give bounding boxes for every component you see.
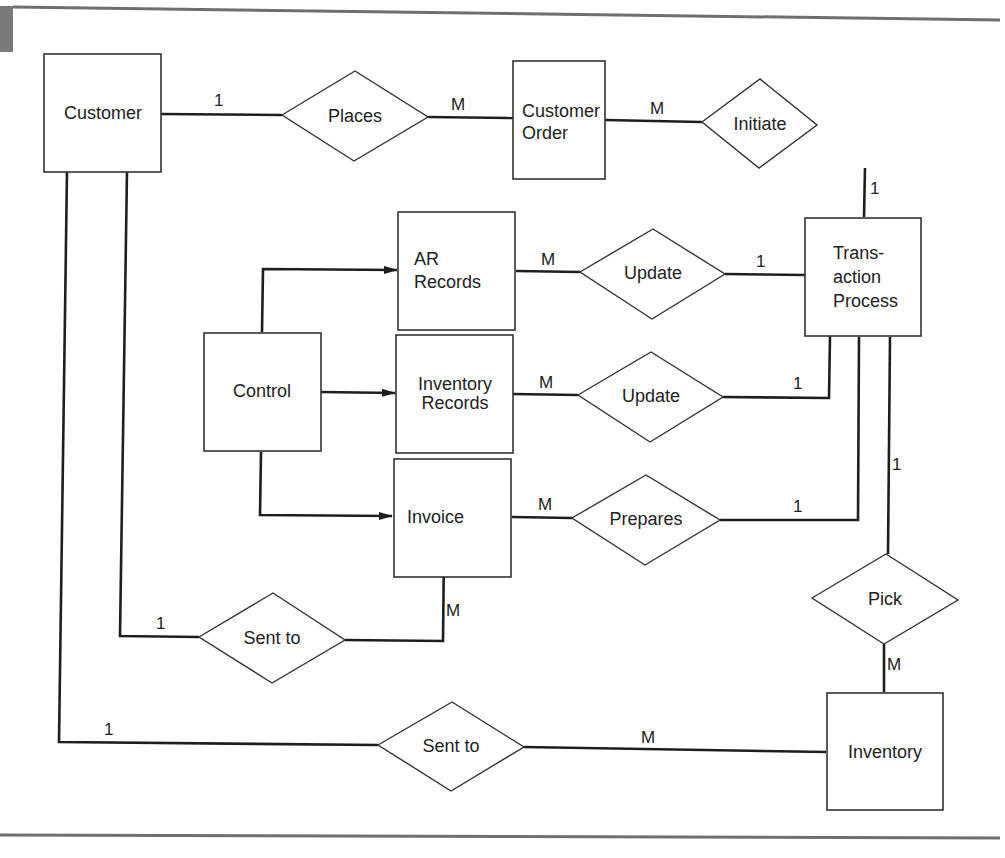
- entity-label: Inventory: [848, 742, 922, 762]
- line-ar-update: [516, 271, 580, 272]
- line-update-tp: [725, 274, 806, 275]
- entity-inventory-records[interactable]: Inventory Records: [396, 335, 513, 453]
- relationship-label: Places: [328, 106, 382, 126]
- entity-label: Customer: [64, 103, 142, 123]
- line-sentto-inventory: [524, 747, 826, 752]
- line-tp-pick: [888, 337, 890, 554]
- top-rule: [13, 7, 1000, 20]
- entity-label: Inventory: [418, 374, 492, 394]
- entity-label: Records: [414, 272, 481, 292]
- line-initiate-tp: [864, 168, 865, 217]
- line-update2-tp: [723, 336, 830, 398]
- relationship-sent-to-invoice[interactable]: Sent to: [199, 593, 345, 683]
- cardinality-label: 1: [104, 720, 113, 739]
- entity-label: Trans-: [833, 243, 884, 263]
- relationship-label: Prepares: [609, 509, 682, 529]
- cardinality-label: M: [650, 99, 664, 118]
- line-customer-sentto-invoice: [120, 171, 199, 637]
- relationship-pick[interactable]: Pick: [812, 554, 958, 644]
- cardinality-label: M: [539, 373, 553, 392]
- bottom-rule: [0, 835, 1000, 838]
- entity-ar-records[interactable]: AR Records: [398, 212, 515, 330]
- line-invrec-update: [513, 394, 578, 395]
- cardinality-label: M: [451, 95, 465, 114]
- line-customer-sentto-inventory: [59, 171, 378, 745]
- relationship-update-inventory[interactable]: Update: [578, 352, 723, 442]
- relationship-label: Sent to: [243, 628, 300, 648]
- entity-control[interactable]: Control: [204, 333, 321, 451]
- relationship-update-ar[interactable]: Update: [580, 229, 725, 319]
- entity-label: Process: [833, 291, 898, 311]
- line-invoice-prepares: [512, 517, 572, 518]
- relationship-label: Update: [624, 263, 682, 283]
- cardinality-label: 1: [793, 497, 802, 516]
- entity-transaction-process[interactable]: Trans- action Process: [805, 218, 921, 336]
- relationship-sent-to-inventory[interactable]: Sent to: [378, 702, 524, 791]
- entity-label: Order: [522, 123, 568, 143]
- entity-label: Customer: [522, 101, 600, 121]
- cardinality-label: 1: [156, 614, 165, 633]
- line-order-initiate: [605, 120, 702, 122]
- relationship-label: Pick: [868, 589, 903, 609]
- entity-label: Invoice: [407, 507, 464, 527]
- cardinality-label: 1: [756, 252, 765, 271]
- line-prepares-tp: [720, 337, 859, 520]
- entity-customer-order[interactable]: Customer Order: [513, 61, 605, 179]
- cardinality-label: M: [446, 601, 460, 620]
- cardinality-label: 1: [793, 374, 802, 393]
- entity-inventory[interactable]: Inventory: [827, 693, 943, 810]
- corner-tab: [0, 6, 13, 52]
- entity-invoice[interactable]: Invoice: [394, 459, 511, 577]
- cardinality-label: M: [538, 495, 552, 514]
- arrow-control-invrec: [321, 392, 395, 393]
- cardinality-label: 1: [214, 91, 223, 110]
- arrow-control-invoice: [260, 452, 392, 516]
- arrow-control-ar: [262, 269, 397, 332]
- cardinality-label: 1: [892, 455, 901, 474]
- entity-label: AR: [414, 249, 439, 269]
- entity-label: Control: [233, 381, 291, 401]
- entity-label: Records: [421, 393, 488, 413]
- entity-label: action: [833, 267, 881, 287]
- cardinality-label: M: [641, 728, 655, 747]
- relationship-prepares[interactable]: Prepares: [572, 475, 720, 565]
- relationship-label: Initiate: [733, 114, 786, 134]
- line-places-order: [428, 117, 513, 118]
- relationship-label: Sent to: [422, 736, 479, 756]
- entity-customer[interactable]: Customer: [44, 54, 161, 172]
- relationship-places[interactable]: Places: [282, 71, 428, 161]
- cardinality-label: M: [887, 655, 901, 674]
- line-customer-places: [160, 114, 282, 115]
- relationship-label: Update: [622, 386, 680, 406]
- er-diagram: Customer Customer Order AR Records Contr…: [0, 0, 1005, 858]
- relationship-initiate[interactable]: Initiate: [702, 79, 817, 168]
- cardinality-label: 1: [870, 179, 879, 198]
- cardinality-label: M: [541, 250, 555, 269]
